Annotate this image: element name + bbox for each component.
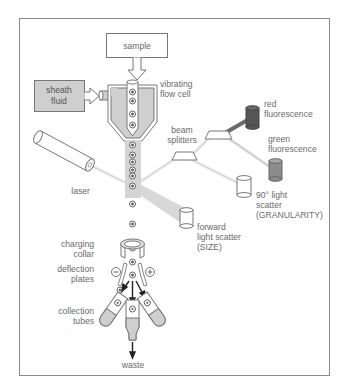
charging-collar-label-1: charging	[61, 239, 94, 249]
beam-splitters-label-1: beam	[171, 125, 193, 135]
side-scatter-label-1: 90° light	[256, 190, 288, 200]
charging-collar-label-2: collar	[73, 249, 94, 259]
forward-scatter-label-2: light scatter	[197, 232, 241, 242]
collection-tubes-label-2: tubes	[73, 316, 94, 326]
side-scatter-label-2: scatter	[256, 200, 282, 210]
sample-arrow-icon	[128, 58, 146, 81]
green-fluorescence-label-1: green	[268, 134, 290, 144]
particle-icon	[130, 152, 136, 158]
collection-tubes-label-1: collection	[58, 306, 94, 316]
green-fluorescence-detector-icon	[269, 159, 282, 182]
waste-arrow-icon	[130, 342, 135, 358]
particle-icon	[130, 142, 136, 148]
forward-scatter-label-1: forward	[197, 222, 226, 232]
charging-collar	[121, 239, 145, 258]
sheath-fluid-reservoir: sheath fluid	[35, 81, 113, 112]
beam-splitter-1	[172, 152, 197, 160]
beam-splitter-2	[205, 131, 232, 139]
beam-to-green	[228, 138, 270, 167]
sample-reservoir: sample	[107, 34, 168, 81]
side-scatter-label-3: (GRANULARITY)	[256, 210, 323, 220]
deflection-plates-label-1: deflection	[57, 264, 94, 274]
laser-label: laser	[71, 186, 90, 196]
beam-splitters-label-2: splitters	[167, 135, 197, 145]
particle-icon	[130, 221, 136, 227]
sheath-label-2: fluid	[51, 96, 67, 106]
particle-icon	[130, 89, 136, 95]
red-fluorescence-label-2: fluorescence	[264, 109, 313, 119]
collection-tube-right	[137, 292, 167, 328]
flow-cell-label-1: vibrating	[160, 79, 193, 89]
particle-icon	[130, 201, 136, 207]
collection-tube-left	[97, 292, 127, 328]
red-fluorescence-detector-icon	[246, 106, 259, 130]
waste-tube	[126, 300, 139, 340]
particle-icon	[130, 159, 136, 165]
waste-label: waste	[121, 360, 145, 370]
particle-icon	[130, 173, 136, 179]
flow-cytometer-diagram: sample sheath fluid	[0, 0, 346, 391]
plus-electrode-icon	[146, 268, 155, 277]
minus-electrode-icon	[112, 268, 121, 277]
forward-scatter-detector-icon	[180, 208, 193, 229]
forward-scatter-label-3: (SIZE)	[197, 242, 222, 252]
green-fluorescence-label-2: fluorescence	[268, 144, 317, 154]
sheath-label-1: sheath	[46, 85, 72, 95]
forward-scatter-cone	[134, 181, 187, 223]
particle-icon	[130, 272, 136, 278]
particle-icon	[130, 259, 136, 265]
particle-icon	[130, 122, 136, 128]
particle-icon	[130, 111, 136, 117]
particle-icon	[130, 98, 136, 104]
sample-label: sample	[123, 41, 151, 51]
side-scatter-detector-icon	[237, 176, 251, 198]
red-fluorescence-label-1: red	[264, 99, 277, 109]
flow-cell-label-2: flow cell	[160, 89, 191, 99]
particle-icon	[130, 167, 136, 173]
sheath-arrow-icon	[85, 88, 100, 104]
laser	[32, 129, 96, 172]
particle-icon	[130, 183, 136, 189]
beam-to-side-scatter	[190, 159, 238, 183]
deflection-plates-label-2: plates	[71, 274, 94, 284]
